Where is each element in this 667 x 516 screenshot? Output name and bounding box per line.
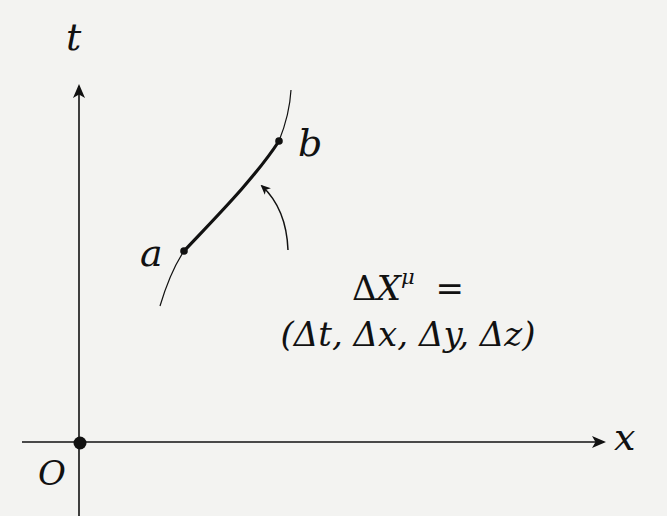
displacement-formula: ΔXμ = (Δt, Δx, Δy, Δz) [268, 266, 548, 351]
delta-symbol: Δ [352, 268, 377, 308]
worldline-segment-ab [184, 141, 279, 251]
point-a-dot [180, 247, 188, 255]
mu-index: μ [401, 264, 415, 289]
t-axis-label: t [66, 18, 81, 56]
x-axis-label: x [614, 418, 635, 456]
point-b-dot [275, 137, 283, 145]
equals-sign: = [435, 268, 464, 308]
formula-line-2: (Δt, Δx, Δy, Δz) [268, 317, 548, 351]
origin-dot [74, 437, 87, 450]
pointer-arrow [262, 186, 288, 250]
spacetime-diagram [0, 0, 667, 516]
point-a-label: a [140, 234, 163, 272]
formula-line-1: ΔXμ = [268, 266, 548, 305]
point-b-label: b [298, 124, 322, 162]
four-vector-symbol: X [377, 268, 401, 308]
origin-label: O [38, 456, 66, 490]
